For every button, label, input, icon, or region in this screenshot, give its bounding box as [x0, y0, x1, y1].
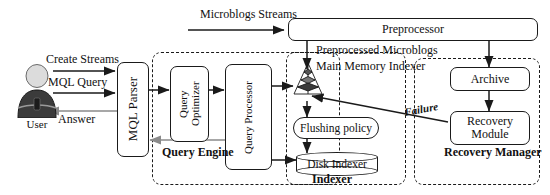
- node-main-memory-indexer-label: Main Memory Indexer: [316, 60, 394, 74]
- node-preprocessor[interactable]: Preprocessor: [288, 18, 538, 41]
- node-preprocessor-label: Preprocessor: [382, 23, 444, 36]
- node-query-optimizer-label: Query Optimizer: [178, 69, 201, 139]
- diagram-canvas: User Microblogs Streams Create Streams M…: [0, 0, 550, 195]
- group-indexer-label: Indexer: [312, 172, 352, 187]
- node-query-processor-label: Query Processor: [243, 69, 255, 165]
- node-query-optimizer[interactable]: Query Optimizer: [170, 66, 209, 142]
- label-preprocessed-microblogs: Preprocessed Microblogs: [316, 43, 438, 58]
- node-archive-label: Archive: [471, 73, 510, 86]
- node-flushing-policy[interactable]: Flushing policy: [293, 117, 379, 139]
- node-archive[interactable]: Archive: [450, 67, 530, 91]
- label-microblogs-streams: Microblogs Streams: [200, 7, 297, 22]
- group-query-engine-label: Query Engine: [162, 146, 224, 159]
- label-answer: Answer: [58, 112, 95, 127]
- label-create-streams: Create Streams: [46, 52, 119, 67]
- label-mql-query: MQL Query: [48, 75, 107, 90]
- person-icon: [14, 64, 60, 118]
- node-recovery-module[interactable]: Recovery Module: [450, 111, 530, 145]
- node-recovery-module-label: Recovery Module: [451, 115, 529, 141]
- group-recovery-manager-label: Recovery Manager: [444, 146, 536, 160]
- node-mql-parser[interactable]: MQL Parser: [117, 62, 149, 157]
- node-flushing-policy-label: Flushing policy: [300, 122, 372, 134]
- user-label: User: [10, 118, 64, 130]
- node-mql-parser-label: MQL Parser: [126, 77, 140, 141]
